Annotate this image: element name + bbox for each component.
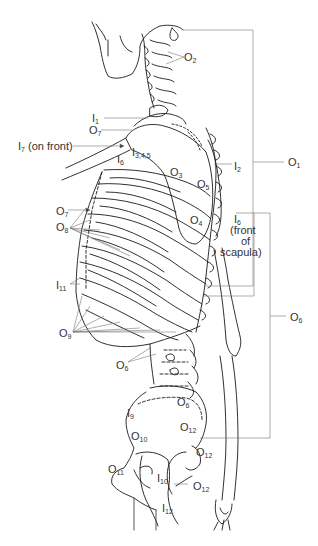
label-O4: O4 — [190, 214, 202, 230]
label-O6-pelvis: O6 — [177, 396, 189, 412]
label-O12-coccyx: O12 — [193, 480, 209, 496]
label-O6-bracket: O6 — [290, 311, 302, 327]
label-O6-lumbar: O6 — [116, 359, 128, 375]
label-I7-on-front: I7 (on front) — [18, 140, 73, 156]
label-O5: O5 — [197, 178, 209, 194]
label-O9: O9 — [59, 327, 71, 343]
label-O7-top: O7 — [89, 124, 101, 140]
label-O7-chest: O7 — [56, 205, 68, 221]
label-front-of-scapula-line3: scapula) — [220, 246, 262, 258]
label-O12-sacrum: O12 — [196, 446, 212, 462]
label-O1: O1 — [288, 156, 300, 172]
label-I9: I9 — [127, 407, 134, 423]
label-O12-pelvis: O12 — [180, 421, 196, 437]
label-O10: O10 — [131, 430, 147, 446]
label-I12: I12 — [162, 502, 173, 518]
label-O11: O11 — [108, 463, 124, 479]
label-I2: I2 — [234, 160, 241, 176]
label-O3: O3 — [170, 166, 182, 182]
label-I10: I10 — [157, 472, 168, 488]
label-I11: I11 — [56, 279, 66, 295]
forearm — [214, 248, 241, 356]
hand — [214, 500, 232, 530]
label-O2: O2 — [184, 51, 196, 67]
clavicle — [134, 114, 186, 127]
ribs — [80, 170, 210, 341]
label-O8: O8 — [56, 221, 68, 237]
skeleton-drawing — [0, 0, 318, 546]
lumbar-spine — [150, 344, 154, 384]
label-I6-arm: I6 — [117, 153, 124, 169]
label-I3-4-5: I3,4,5 — [132, 146, 151, 162]
skull-jaw — [92, 22, 183, 78]
